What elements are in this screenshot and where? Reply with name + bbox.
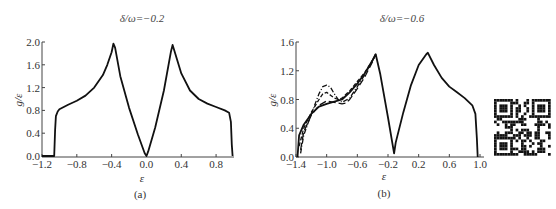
qr-module [540, 150, 543, 153]
qr-module [548, 107, 551, 110]
qr-module [535, 123, 538, 126]
qr-module [532, 104, 535, 107]
qr-module [494, 121, 497, 124]
qr-module [510, 115, 513, 118]
qr-module [497, 123, 500, 126]
panel-b: δ/ω=−0.6 −1.4−1.0−0.6−0.20.20.61.00.00.4… [266, 12, 487, 200]
panel-a-x-tick-label: 0.4 [174, 158, 188, 170]
qr-module [524, 123, 527, 126]
qr-module [540, 145, 543, 148]
qr-module [505, 99, 508, 102]
qr-module [521, 123, 524, 126]
qr-module [545, 115, 548, 118]
qr-module [505, 115, 508, 118]
qr-module [540, 115, 543, 118]
qr-module [526, 150, 529, 153]
panel-b-label: (b) [378, 187, 391, 200]
panel-b-series [298, 53, 478, 157]
qr-module [548, 145, 551, 148]
panel-b-ticks: −1.4−1.0−0.6−0.20.20.61.00.00.40.81.21.6 [280, 36, 487, 170]
panel-b-x-tick-label: 1.0 [473, 158, 487, 170]
panel-a-y-tick-label: 1.6 [26, 59, 40, 71]
qr-module [499, 134, 502, 137]
qr-module [494, 153, 497, 156]
panel-a-title: δ/ω=−0.2 [120, 12, 165, 24]
qr-module [505, 145, 508, 148]
qr-module [502, 153, 505, 156]
qr-module [494, 142, 497, 145]
qr-module [513, 134, 516, 137]
qr-module [502, 137, 505, 140]
qr-module [505, 110, 508, 113]
qr-module [529, 153, 532, 156]
qr-module [497, 137, 500, 140]
qr-module [516, 110, 519, 113]
qr-module [543, 115, 546, 118]
qr-module [521, 115, 524, 118]
panel-a-x-label: ε [140, 172, 145, 184]
qr-module [532, 153, 535, 156]
qr-module [510, 129, 513, 132]
qr-module [494, 113, 497, 116]
qr-module [548, 153, 551, 156]
qr-module [510, 150, 513, 153]
qr-module [510, 126, 513, 129]
qr-module [524, 104, 527, 107]
qr-module [494, 104, 497, 107]
qr-module [526, 102, 529, 105]
qr-module [526, 107, 529, 110]
qr-module [502, 134, 505, 137]
qr-module [510, 102, 513, 105]
qr-module [499, 137, 502, 140]
qr-module [521, 129, 524, 132]
qr-module [510, 107, 513, 110]
qr-module [510, 131, 513, 134]
qr-module [516, 148, 519, 151]
panel-b-x-tick-label: −0.6 [347, 158, 367, 170]
qr-module [502, 115, 505, 118]
qr-module [505, 153, 508, 156]
qr-module [537, 137, 540, 140]
panel-a-y-tick-label: 0.0 [26, 150, 40, 162]
qr-module [510, 110, 513, 113]
qr-module [535, 134, 538, 137]
qr-module [518, 110, 521, 113]
qr-module [510, 140, 513, 143]
qr-module [535, 131, 538, 134]
qr-module [516, 102, 519, 105]
qr-module [543, 110, 546, 113]
panel-a-y-tick-label: 2.0 [26, 36, 40, 48]
qr-module [508, 126, 511, 129]
qr-module [513, 121, 516, 124]
qr-module [505, 123, 508, 126]
qr-module [540, 148, 543, 151]
qr-module [535, 115, 538, 118]
qr-module [502, 148, 505, 151]
qr-module [502, 99, 505, 102]
qr-module [537, 104, 540, 107]
qr-module [537, 107, 540, 110]
qr-module [508, 153, 511, 156]
qr-module [502, 104, 505, 107]
qr-module [537, 150, 540, 153]
qr-module [505, 134, 508, 137]
qr-module [540, 121, 543, 124]
qr-module [516, 129, 519, 132]
qr-module [499, 99, 502, 102]
qr-module [529, 115, 532, 118]
qr-module [532, 99, 535, 102]
qr-module [510, 123, 513, 126]
qr-module [510, 148, 513, 151]
qr-module [510, 145, 513, 148]
qr-module [537, 123, 540, 126]
qr-module [516, 107, 519, 110]
panel-a-x-tick-label: 0.8 [209, 158, 223, 170]
panel-b-x-tick-label: −1.0 [317, 158, 337, 170]
qr-module [526, 129, 529, 132]
qr-module [524, 150, 527, 153]
panel-a-ticks: −1.2−0.8−0.40.00.40.80.00.40.81.21.62.0 [26, 36, 223, 170]
panel-a: δ/ω=−0.2 −1.2−0.8−0.40.00.40.80.00.40.81… [12, 12, 234, 201]
figure: δ/ω=−0.2 −1.2−0.8−0.40.00.40.80.00.40.81… [0, 0, 556, 209]
qr-module [532, 110, 535, 113]
qr-module [529, 145, 532, 148]
